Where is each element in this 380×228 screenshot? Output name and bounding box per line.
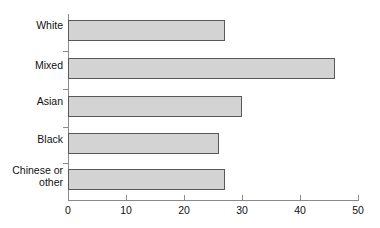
value-axis-tick-label: 50: [343, 204, 373, 216]
value-axis-tick-label: 30: [227, 204, 257, 216]
value-axis-tick: [184, 195, 185, 201]
value-axis-tick: [126, 195, 127, 201]
value-axis-tick: [300, 195, 301, 201]
value-axis-tick-label: 0: [53, 204, 83, 216]
value-axis-tick: [358, 195, 359, 201]
category-label-asian: Asian: [1, 96, 63, 108]
category-label-white: White: [1, 20, 63, 32]
value-axis-tick-label: 40: [285, 204, 315, 216]
bar-asian[interactable]: [68, 96, 242, 117]
value-axis-tick: [68, 195, 69, 201]
value-axis-tick-label: 20: [169, 204, 199, 216]
bar-chart: White Mixed Asian Black Chinese or other…: [0, 0, 380, 228]
bar-chinese-or-other[interactable]: [68, 169, 225, 190]
plot-area: [68, 14, 358, 200]
bar-white[interactable]: [68, 20, 225, 41]
bar-mixed[interactable]: [68, 58, 335, 79]
value-axis-line: [68, 200, 359, 201]
category-label-chinese-or-other: Chinese or other: [1, 165, 63, 188]
value-axis-tick-label: 10: [111, 204, 141, 216]
bar-black[interactable]: [68, 133, 219, 154]
category-label-black: Black: [1, 134, 63, 146]
category-axis-labels: White Mixed Asian Black Chinese or other: [0, 0, 63, 228]
category-label-mixed: Mixed: [1, 60, 63, 72]
value-axis-tick: [242, 195, 243, 201]
